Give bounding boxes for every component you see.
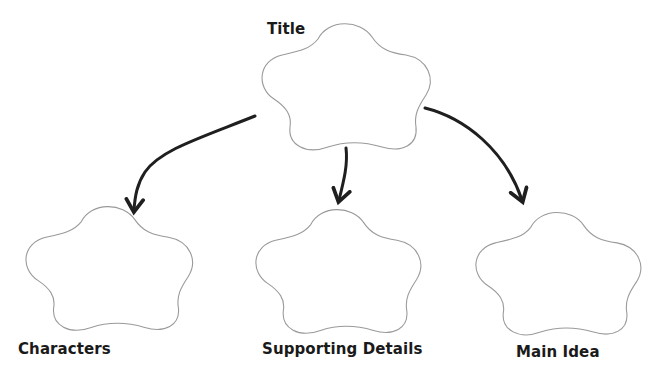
diagram-canvas (0, 0, 659, 377)
main-idea-node-shape[interactable] (476, 213, 641, 335)
supporting-details-node-shape[interactable] (256, 210, 421, 334)
root-node-label: Title (267, 20, 305, 38)
root-node-shape[interactable] (262, 24, 430, 150)
supporting-details-node-label: Supporting Details (262, 340, 423, 358)
main-idea-node-label: Main Idea (516, 343, 600, 361)
characters-node-shape[interactable] (26, 207, 193, 331)
arrow-to-characters-icon (134, 116, 255, 210)
arrow-to-main-idea-icon (425, 108, 522, 200)
characters-node-label: Characters (18, 340, 111, 358)
arrow-to-supporting-details-icon (339, 148, 347, 200)
